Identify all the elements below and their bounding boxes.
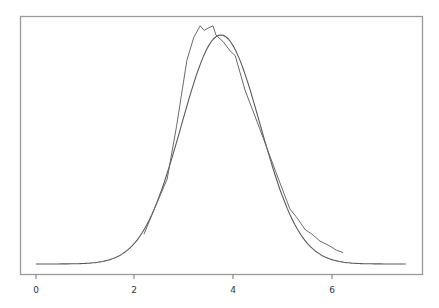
fitted-normal-curve — [36, 35, 406, 264]
x-tick-label-2: 2 — [131, 285, 137, 295]
x-axis: 0 2 4 6 — [33, 274, 335, 295]
x-tick-label-0: 0 — [33, 285, 39, 295]
x-tick-label-4: 4 — [230, 285, 236, 295]
plot-frame — [21, 17, 423, 275]
x-tick-label-6: 6 — [329, 285, 335, 295]
density-chart: 0 2 4 6 — [0, 0, 439, 308]
empirical-density-curve — [144, 26, 343, 253]
